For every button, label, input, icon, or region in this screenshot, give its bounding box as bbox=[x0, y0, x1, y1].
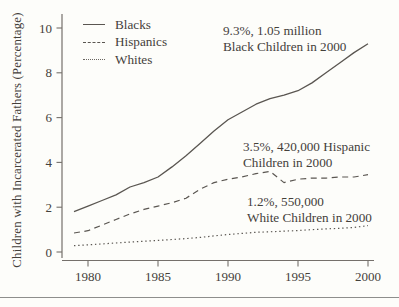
dotted-line-sample-icon bbox=[83, 59, 105, 60]
y-tick-label: 6 bbox=[46, 110, 53, 125]
x-tick-label: 1995 bbox=[285, 269, 311, 284]
page-bottom-rule bbox=[0, 297, 399, 298]
annotation-black-children: 9.3%, 1.05 million Black Children in 200… bbox=[223, 23, 346, 55]
dashed-line-sample-icon bbox=[83, 42, 105, 43]
y-tick-label: 4 bbox=[46, 155, 53, 170]
legend-label-hispanics: Hispanics bbox=[115, 34, 167, 50]
solid-line-sample-icon bbox=[83, 24, 105, 25]
y-tick-label: 10 bbox=[39, 21, 52, 36]
x-tick-label: 2000 bbox=[355, 269, 381, 284]
x-tick-label: 1990 bbox=[215, 269, 241, 284]
y-tick-label: 0 bbox=[46, 245, 53, 260]
annotation-black-line1: 9.3%, 1.05 million bbox=[223, 23, 346, 39]
annotation-white-line2: White Children in 2000 bbox=[247, 210, 372, 226]
figure-page: Children with Incarcerated Fathers (Perc… bbox=[0, 0, 399, 307]
series-line-blacks bbox=[74, 44, 368, 212]
annotation-black-line2: Black Children in 2000 bbox=[223, 39, 346, 55]
legend-label-blacks: Blacks bbox=[115, 17, 151, 33]
y-tick-label: 8 bbox=[46, 65, 53, 80]
annotation-white-line1: 1.2%, 550,000 bbox=[247, 194, 372, 210]
annotation-white-children: 1.2%, 550,000 White Children in 2000 bbox=[247, 194, 372, 226]
y-tick-label: 2 bbox=[46, 200, 53, 215]
legend-item-hispanics: Hispanics bbox=[83, 34, 167, 52]
annotation-hispanic-line1: 3.5%, 420,000 Hispanic bbox=[243, 139, 370, 155]
legend-label-whites: Whites bbox=[115, 52, 152, 68]
x-tick-label: 1985 bbox=[145, 269, 171, 284]
series-line-whites bbox=[74, 226, 368, 246]
legend: Blacks Hispanics Whites bbox=[83, 16, 167, 69]
legend-item-blacks: Blacks bbox=[83, 16, 167, 34]
x-tick-label: 1980 bbox=[75, 269, 101, 284]
annotation-hispanic-line2: Children in 2000 bbox=[243, 155, 370, 171]
legend-item-whites: Whites bbox=[83, 51, 167, 69]
annotation-hispanic-children: 3.5%, 420,000 Hispanic Children in 2000 bbox=[243, 139, 370, 171]
